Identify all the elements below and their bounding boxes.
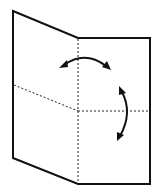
vertical-fold-arrow-icon bbox=[117, 86, 127, 141]
horizontal-crease-left bbox=[14, 85, 78, 111]
origami-diagram bbox=[0, 0, 163, 195]
paper-outline bbox=[13, 11, 150, 184]
horizontal-fold-arrow-icon bbox=[59, 58, 111, 70]
